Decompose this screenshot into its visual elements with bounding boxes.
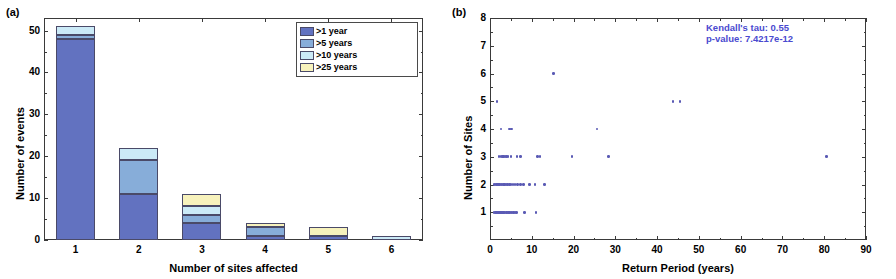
panel-b-y-minor-tick [864, 60, 867, 61]
panel-b-y-minor-tick [864, 87, 867, 88]
panel-b-x-minor-tick [511, 18, 512, 21]
panel-a-y-minor-tick [421, 135, 424, 136]
panel-b-x-tick-label: 20 [558, 244, 590, 255]
panel-a-y-tick-label: 20 [14, 150, 40, 161]
legend-row[interactable]: >1 year [300, 26, 414, 37]
panel-b-x-minor-tick [553, 18, 554, 21]
panel-b-y-tick-label: 5 [462, 95, 486, 106]
panel-a-y-tick-right [419, 72, 423, 73]
panel-b-y-tick-right [862, 212, 866, 213]
panel-a-label: (a) [6, 6, 19, 18]
scatter-point [672, 100, 675, 103]
figure-container: (a) Number of events Number of sites aff… [0, 0, 896, 279]
panel-b-x-axis-title: Return Period (years) [490, 262, 866, 274]
panel-b-y-tick [490, 129, 494, 130]
legend-swatch-1 [300, 27, 314, 36]
annotation-line: Kendall's tau: 0.55 [706, 22, 793, 33]
panel-b-x-minor-tick [845, 238, 846, 241]
panel-a-y-minor-tick [44, 135, 47, 136]
panel-a-y-tick-right [419, 114, 423, 115]
panel-b-statistics-annotation: Kendall's tau: 0.55p-value: 7.4217e-12 [706, 22, 793, 44]
legend-label-4: >25 years [316, 63, 357, 72]
bar-segment [309, 236, 348, 240]
panel-a-y-minor-tick [44, 219, 47, 220]
panel-b-y-tick-right [862, 101, 866, 102]
panel-b-x-tick [699, 236, 700, 240]
panel-b-y-minor-tick [490, 60, 493, 61]
panel-a-x-tick-label: 6 [375, 244, 407, 255]
panel-b-x-minor-tick [762, 238, 763, 241]
panel-b-x-tick [741, 236, 742, 240]
panel-a-y-tick-label: 0 [14, 234, 40, 245]
panel-a-y-minor-tick [44, 93, 47, 94]
panel-b-y-tick [490, 157, 494, 158]
legend-row[interactable]: >5 years [300, 38, 414, 49]
panel-a-x-tick-label: 5 [312, 244, 344, 255]
panel-b-y-tick-right [862, 157, 866, 158]
bar-segment [246, 236, 285, 240]
panel-b-y-minor-tick [490, 171, 493, 172]
panel-b-y-minor-tick [864, 226, 867, 227]
scatter-point [528, 183, 531, 186]
panel-a-y-tick-right [419, 156, 423, 157]
panel-b-y-tick-right [862, 74, 866, 75]
panel-b-x-minor-tick [594, 18, 595, 21]
bar-segment [182, 215, 221, 223]
bar-segment [119, 160, 158, 194]
panel-b-x-minor-tick [678, 18, 679, 21]
panel-a: (a) Number of events Number of sites aff… [0, 0, 448, 279]
scatter-point [519, 155, 522, 158]
scatter-point [510, 128, 513, 131]
panel-b: (b) Number of Sites Return Period (years… [448, 0, 896, 279]
panel-a-legend[interactable]: >1 year>5 years>10 years>25 years [296, 22, 418, 77]
panel-b-plot-area [490, 18, 866, 240]
panel-a-y-tick-right [419, 31, 423, 32]
panel-b-y-minor-tick [490, 226, 493, 227]
panel-b-x-tick-label: 0 [474, 244, 506, 255]
panel-a-x-tick-top [139, 18, 140, 22]
panel-a-x-tick-label: 4 [249, 244, 281, 255]
panel-b-x-tick-label: 10 [516, 244, 548, 255]
panel-b-y-tick-right [862, 185, 866, 186]
panel-a-y-tick-label: 50 [14, 25, 40, 36]
legend-row[interactable]: >25 years [300, 62, 414, 73]
panel-b-x-tick [657, 236, 658, 240]
panel-b-x-tick-label: 30 [599, 244, 631, 255]
legend-swatch-2 [300, 39, 314, 48]
panel-b-x-tick-label: 90 [850, 244, 882, 255]
bar-segment [182, 206, 221, 214]
panel-a-y-tick [44, 31, 48, 32]
panel-a-y-tick-right [419, 198, 423, 199]
panel-a-x-tick-label: 2 [123, 244, 155, 255]
bar-segment [56, 26, 95, 34]
bar-segment [309, 227, 348, 235]
panel-b-y-tick [490, 74, 494, 75]
panel-a-y-minor-tick [421, 52, 424, 53]
scatter-point [825, 155, 828, 158]
scatter-point [523, 211, 526, 214]
panel-a-y-tick [44, 114, 48, 115]
panel-b-x-minor-tick [720, 18, 721, 21]
panel-b-y-minor-tick [864, 198, 867, 199]
panel-a-y-minor-tick [421, 219, 424, 220]
scatter-point [552, 72, 555, 75]
scatter-point [515, 211, 518, 214]
panel-b-x-minor-tick [803, 18, 804, 21]
panel-b-y-minor-tick [490, 198, 493, 199]
panel-b-x-minor-tick [803, 238, 804, 241]
panel-b-x-minor-tick [553, 238, 554, 241]
panel-b-y-tick [490, 101, 494, 102]
bar-segment [56, 39, 95, 240]
legend-label-2: >5 years [316, 39, 352, 48]
panel-b-y-minor-tick [864, 32, 867, 33]
panel-b-y-minor-tick [490, 143, 493, 144]
legend-row[interactable]: >10 years [300, 50, 414, 61]
panel-b-x-minor-tick [636, 18, 637, 21]
panel-b-x-minor-tick [720, 238, 721, 241]
bar-segment [119, 148, 158, 161]
panel-a-x-tick-top [76, 18, 77, 22]
scatter-point [522, 183, 525, 186]
panel-b-x-tick-label: 60 [725, 244, 757, 255]
panel-a-y-minor-tick [421, 93, 424, 94]
panel-b-y-tick-label: 3 [462, 151, 486, 162]
